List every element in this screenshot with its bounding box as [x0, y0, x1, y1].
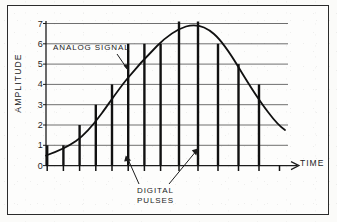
digital-pulses-annotation: DIGITAL PULSES	[137, 186, 174, 206]
y-tick-label-2: 2	[31, 120, 43, 130]
sample-tick-marks	[47, 166, 279, 171]
analog-signal-arrow	[117, 54, 129, 71]
figure-container: 7 6 5 4 3 2 1 0 AMPLITUDE TIME ANALOG SI…	[0, 0, 337, 222]
y-axis-title: AMPLITUDE	[13, 53, 23, 113]
y-tick-label-4: 4	[31, 79, 43, 89]
y-tick-label-0: 0	[31, 161, 43, 171]
y-tick-label-3: 3	[31, 100, 43, 110]
y-tick-label-1: 1	[31, 140, 43, 150]
y-tick-label-5: 5	[31, 59, 43, 69]
x-axis-title: TIME	[300, 158, 324, 168]
gridlines	[46, 24, 288, 146]
digital-pulses-annotation-line1: DIGITAL	[137, 186, 174, 196]
digital-pulses-annotation-line2: PULSES	[137, 196, 174, 206]
digital-pulses-arrow-left	[124, 156, 139, 185]
y-tick-label-6: 6	[31, 39, 43, 49]
y-tick-label-7: 7	[31, 19, 43, 29]
analog-signal-annotation: ANALOG SIGNAL	[53, 43, 130, 52]
